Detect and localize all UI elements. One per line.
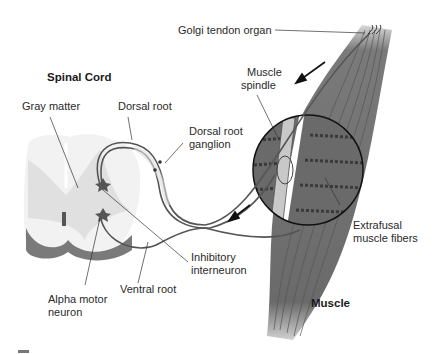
reflex-diagram: Golgi tendon organ Muscle spindle Spinal… (0, 0, 438, 354)
label-gray-matter: Gray matter (22, 100, 80, 113)
spinal-cord-shape (24, 134, 140, 260)
label-drg-1: Dorsal root (189, 125, 243, 138)
title-spinal-cord: Spinal Cord (47, 71, 112, 84)
label-inhibitory-1: Inhibitory (191, 251, 236, 264)
label-dorsal-root: Dorsal root (118, 100, 172, 113)
label-extrafusal-1: Extrafusal (353, 219, 402, 232)
label-muscle-spindle-1: Muscle (247, 66, 282, 79)
title-muscle: Muscle (311, 297, 350, 310)
label-inhibitory-2: interneuron (191, 264, 247, 277)
label-golgi-tendon-organ: Golgi tendon organ (178, 24, 272, 37)
label-drg-2: ganglion (189, 138, 231, 151)
label-ventral-root: Ventral root (120, 283, 176, 296)
label-muscle-spindle-2: spindle (241, 79, 276, 92)
label-alpha-motor-2: neuron (48, 306, 82, 319)
label-extrafusal-2: muscle fibers (353, 232, 418, 245)
label-alpha-motor-1: Alpha motor (48, 293, 107, 306)
